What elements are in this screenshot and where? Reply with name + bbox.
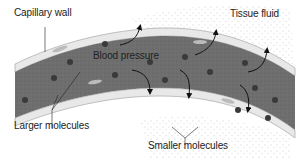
label-larger-molecules: Larger molecules <box>14 120 89 131</box>
label-capillary-wall: Capillary wall <box>14 7 72 18</box>
capillary-diagram <box>0 0 303 158</box>
label-tissue-fluid: Tissue fluid <box>230 8 279 19</box>
label-smaller-molecules: Smaller molecules <box>148 140 228 151</box>
label-blood-pressure: Blood pressure <box>93 50 159 61</box>
